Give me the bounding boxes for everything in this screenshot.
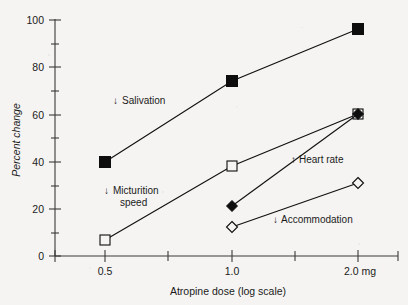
data-point-salivation-2.0 bbox=[353, 24, 364, 35]
data-point-micturition-0.5 bbox=[100, 235, 110, 245]
down-arrow-icon: ↓ bbox=[113, 95, 118, 106]
annotation-salivation-label: Salivation bbox=[122, 95, 165, 106]
annotation-accommodation-label: Accommodation bbox=[281, 214, 353, 225]
annotation-heart-rate-label: Heart rate bbox=[299, 154, 344, 165]
y-tick-label-20: 20 bbox=[32, 203, 44, 215]
annotation-micturition-label: Micturition bbox=[113, 185, 159, 196]
up-arrow-icon: ↑ bbox=[291, 154, 296, 165]
annotation-heart-rate: ↑ Heart rate bbox=[291, 154, 344, 165]
x-tick-label-2.0: 2.0 mg bbox=[344, 265, 376, 277]
data-point-salivation-0.5 bbox=[100, 157, 111, 168]
annotation-micturition-label-line2: speed bbox=[120, 197, 147, 208]
y-tick-label-80: 80 bbox=[32, 61, 44, 73]
x-tick-label-0.5: 0.5 bbox=[98, 265, 113, 277]
down-arrow-icon: ↓ bbox=[273, 214, 278, 225]
down-arrow-icon: ↓ bbox=[104, 185, 109, 196]
x-tick-label-1.0: 1.0 bbox=[225, 265, 240, 277]
y-axis-title: Percent change bbox=[10, 103, 22, 177]
data-point-salivation-1.0 bbox=[227, 76, 238, 87]
annotation-accommodation: ↓ Accommodation bbox=[273, 214, 353, 225]
chart-canvas: 100 80 60 40 20 0 Percent change 0.5 1.0… bbox=[0, 0, 408, 305]
chart-background bbox=[0, 0, 408, 305]
y-tick-label-100: 100 bbox=[26, 14, 44, 26]
y-tick-label-40: 40 bbox=[32, 156, 44, 168]
y-tick-label-0: 0 bbox=[38, 250, 44, 262]
y-tick-label-60: 60 bbox=[32, 109, 44, 121]
x-axis-title: Atropine dose (log scale) bbox=[170, 285, 286, 297]
atropine-dose-response-chart: 100 80 60 40 20 0 Percent change 0.5 1.0… bbox=[0, 0, 408, 305]
data-point-micturition-1.0 bbox=[227, 161, 237, 171]
